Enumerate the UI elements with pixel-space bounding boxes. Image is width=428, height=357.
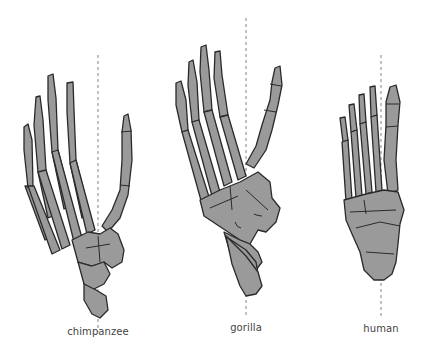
diagram-canvas (0, 0, 428, 357)
chimpanzee-foot (24, 55, 132, 332)
gorilla-foot (176, 18, 282, 318)
label-chimpanzee: chimpanzee (48, 326, 148, 337)
label-human: human (331, 323, 428, 334)
human-foot (340, 55, 404, 318)
label-gorilla: gorilla (196, 322, 296, 333)
